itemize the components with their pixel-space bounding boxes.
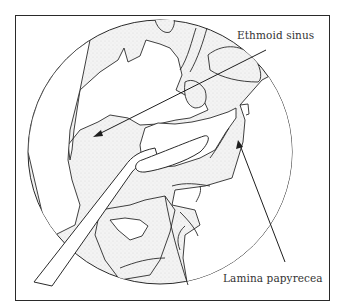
endoscopic-view-illustration (0, 0, 342, 308)
label-ethmoid-sinus: Ethmoid sinus (237, 29, 314, 41)
label-lamina-papyrecea: Lamina papyrecea (223, 272, 323, 284)
